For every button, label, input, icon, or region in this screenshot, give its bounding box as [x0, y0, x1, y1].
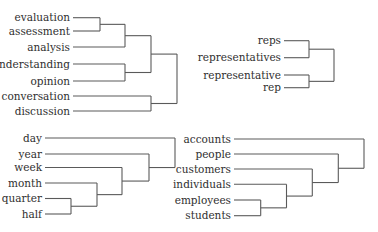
leaf-label: assessment	[9, 25, 71, 37]
leaf-label: students	[185, 209, 231, 221]
leaf-label: understanding	[0, 58, 70, 70]
leaf-label: employees	[175, 194, 231, 206]
leaf-label: conversation	[2, 90, 71, 102]
leaf-label: half	[22, 208, 43, 220]
dendrogram-bottom-right: accountspeoplecustomersindividualsemploy…	[173, 133, 364, 222]
leaf-label: opinion	[30, 75, 70, 87]
leaf-label: customers	[176, 163, 231, 175]
leaf-label: discussion	[15, 105, 71, 117]
leaf-label: rep	[263, 81, 281, 93]
leaf-label: quarter	[2, 192, 43, 204]
dendrogram-top-left: evaluationassessmentanalysisunderstandin…	[0, 11, 177, 116]
leaf-label: month	[8, 177, 42, 189]
dendrogram-top-right: repsrepresentativesrepresentativerep	[198, 34, 334, 93]
leaf-label: year	[18, 148, 43, 160]
leaf-label: representatives	[198, 51, 281, 63]
leaf-label: evaluation	[15, 11, 71, 23]
leaf-label: reps	[258, 34, 281, 46]
leaf-label: people	[195, 148, 231, 160]
dendrogram-bottom-left: dayyearweekmonthquarterhalf	[2, 132, 175, 220]
leaf-label: day	[23, 132, 42, 144]
leaf-label: analysis	[27, 41, 70, 53]
dendrogram-figure: evaluationassessmentanalysisunderstandin…	[0, 0, 378, 232]
leaf-label: week	[14, 161, 42, 173]
leaf-label: accounts	[184, 133, 231, 145]
leaf-label: representative	[203, 69, 281, 81]
leaf-label: individuals	[173, 178, 231, 190]
